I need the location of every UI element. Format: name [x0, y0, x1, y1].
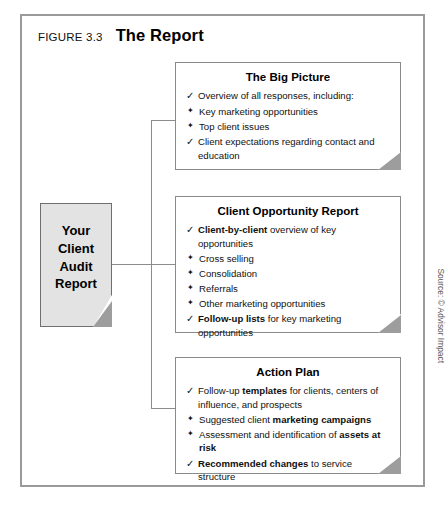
- client-report-line: Client: [58, 241, 94, 258]
- list-item-text: Recommended changes to service structure: [198, 457, 390, 484]
- check-icon: ✓: [186, 89, 198, 103]
- client-audit-report-node: Your Client Audit Report: [40, 203, 112, 327]
- diamond-bullet-icon: ✦: [186, 282, 199, 293]
- list-item-text: Overview of all responses, including:: [198, 89, 390, 103]
- check-icon: ✓: [186, 312, 198, 326]
- diamond-bullet-icon: ✦: [186, 252, 199, 263]
- list-item: ✦Key marketing opportunities: [186, 105, 390, 119]
- diamond-bullet-icon: ✦: [186, 428, 199, 439]
- box-item-list: ✓Overview of all responses, including:✦K…: [186, 89, 390, 162]
- client-audit-report-label: Your Client Audit Report: [40, 203, 112, 327]
- list-item: ✦Other marketing opportunities: [186, 297, 390, 311]
- list-item: ✓Follow-up lists for key marketing oppor…: [186, 312, 390, 339]
- list-item: ✦Top client issues: [186, 120, 390, 134]
- list-item: ✓Recommended changes to service structur…: [186, 457, 390, 484]
- content-box-client-opportunity-report: Client Opportunity Report ✓Client-by-cli…: [175, 196, 401, 333]
- list-item-text: Suggested client marketing campaigns: [199, 413, 390, 427]
- content-box-big-picture: The Big Picture ✓Overview of all respons…: [175, 62, 401, 170]
- list-item: ✦Assessment and identification of assets…: [186, 428, 390, 455]
- check-icon: ✓: [186, 135, 198, 149]
- check-icon: ✓: [186, 384, 198, 398]
- box-item-list: ✓Follow-up templates for clients, center…: [186, 384, 390, 484]
- diamond-bullet-icon: ✦: [186, 297, 199, 308]
- connector-branch-opportunity: [112, 264, 176, 265]
- source-attribution: Source: © Advisor Impact: [436, 268, 446, 363]
- list-item-text: Follow-up lists for key marketing opport…: [198, 312, 390, 339]
- list-item: ✓Overview of all responses, including:: [186, 89, 390, 103]
- diamond-bullet-icon: ✦: [186, 267, 199, 278]
- list-item: ✦Suggested client marketing campaigns: [186, 413, 390, 427]
- list-item: ✓Client expectations regarding contact a…: [186, 135, 390, 162]
- list-item-text: Other marketing opportunities: [199, 297, 390, 311]
- box-title: The Big Picture: [186, 71, 390, 83]
- connector-branch-action-plan: [151, 408, 176, 409]
- box-title: Action Plan: [186, 366, 390, 378]
- figure-title-text: The Report: [116, 26, 204, 45]
- list-item: ✦Referrals: [186, 282, 390, 296]
- connector-branch-big-picture: [151, 120, 176, 121]
- diamond-bullet-icon: ✦: [186, 413, 199, 424]
- list-item-text: Client-by-client overview of key opportu…: [198, 223, 390, 250]
- list-item-text: Client expectations regarding contact an…: [198, 135, 390, 162]
- diamond-bullet-icon: ✦: [186, 120, 199, 131]
- list-item-text: Consolidation: [199, 267, 390, 281]
- list-item: ✦Consolidation: [186, 267, 390, 281]
- box-item-list: ✓Client-by-client overview of key opport…: [186, 223, 390, 339]
- diamond-bullet-icon: ✦: [186, 105, 199, 116]
- list-item-text: Top client issues: [199, 120, 390, 134]
- client-report-line: Report: [55, 276, 97, 293]
- client-report-line: Audit: [59, 259, 92, 276]
- content-box-action-plan: Action Plan ✓Follow-up templates for cli…: [175, 357, 401, 474]
- list-item: ✓Follow-up templates for clients, center…: [186, 384, 390, 411]
- figure-title: FIGURE 3.3 The Report: [38, 26, 204, 45]
- box-title: Client Opportunity Report: [186, 205, 390, 217]
- list-item-text: Assessment and identification of assets …: [199, 428, 390, 455]
- list-item-text: Referrals: [199, 282, 390, 296]
- list-item-text: Follow-up templates for clients, centers…: [198, 384, 390, 411]
- check-icon: ✓: [186, 457, 198, 471]
- list-item: ✦Cross selling: [186, 252, 390, 266]
- check-icon: ✓: [186, 223, 198, 237]
- figure-number-label: FIGURE 3.3: [38, 31, 103, 43]
- list-item-text: Cross selling: [199, 252, 390, 266]
- list-item: ✓Client-by-client overview of key opport…: [186, 223, 390, 250]
- list-item-text: Key marketing opportunities: [199, 105, 390, 119]
- client-report-line: Your: [62, 223, 91, 240]
